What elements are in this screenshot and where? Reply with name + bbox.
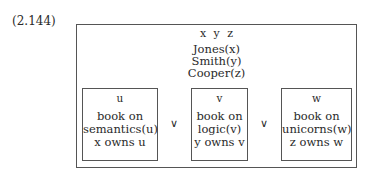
disjunct-condition: y owns v xyxy=(192,136,247,149)
disjunction-operator: ∨ xyxy=(170,118,178,130)
drs-universe: x y z xyxy=(77,28,356,40)
condition-cooper: Cooper(z) xyxy=(77,67,356,79)
disjunct-conditions: book on semantics(u) x owns u xyxy=(83,110,157,149)
disjunction-operator: ∨ xyxy=(260,118,268,130)
disjunct-condition: x owns u xyxy=(83,136,157,149)
disjunct-conditions: book on logic(v) y owns v xyxy=(192,110,247,149)
disjunct-box-v: v book on logic(v) y owns v xyxy=(191,88,248,161)
disjunct-referent: u xyxy=(83,92,157,104)
drs-conditions: Jones(x) Smith(y) Cooper(z) xyxy=(77,43,356,79)
disjunct-conditions: book on unicorns(w) z owns w xyxy=(282,110,351,149)
drs-main-box: x y z Jones(x) Smith(y) Cooper(z) u book… xyxy=(76,24,357,168)
disjunct-referent: v xyxy=(192,92,247,104)
disjunct-condition: z owns w xyxy=(282,136,351,149)
disjunct-box-u: u book on semantics(u) x owns u xyxy=(82,88,158,161)
disjunct-box-w: w book on unicorns(w) z owns w xyxy=(281,88,352,161)
equation-label: (2.144) xyxy=(12,14,56,28)
disjunct-referent: w xyxy=(282,92,351,104)
